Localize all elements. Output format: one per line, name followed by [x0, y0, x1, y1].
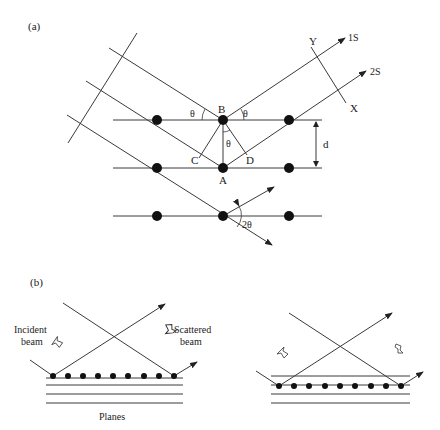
- scattered-ray-short-right: [401, 372, 423, 386]
- d-label: d: [323, 138, 329, 150]
- two-theta-label: 2θ: [242, 219, 252, 230]
- point-C-label: C: [191, 154, 198, 166]
- scattered-ray-out: [53, 304, 165, 376]
- line-BC: [199, 120, 223, 158]
- scattered-ray-short: [174, 362, 197, 376]
- panel-a: (a) d θ θ θ 2θ: [28, 20, 381, 245]
- scattered-label-2: beam: [180, 336, 202, 347]
- incident-beam-arrow-icon: [51, 336, 64, 349]
- incident-wavefront: [68, 33, 137, 143]
- incident-beam-arrow-icon-right: [277, 347, 288, 358]
- ray-1S-label: 1S: [348, 32, 359, 43]
- point-D-label: D: [246, 154, 254, 166]
- scattered-beam-arrow-icon-right: [395, 344, 403, 353]
- point-Y-label: Y: [309, 35, 317, 47]
- atoms-panel-b-right: [276, 383, 404, 389]
- bragg-diffraction-figure: (a) d θ θ θ 2θ: [0, 0, 440, 430]
- incident-ray-in-right: [256, 371, 279, 386]
- theta-left-label: θ: [190, 108, 195, 119]
- incident-ray-1: [109, 48, 223, 120]
- theta-right-label: θ: [243, 108, 248, 119]
- incident-label-2: beam: [21, 336, 43, 347]
- incident-ray-in: [30, 360, 53, 376]
- scattered-wavefront: [311, 47, 346, 103]
- panel-b-right: [256, 313, 423, 403]
- point-B-label: B: [218, 103, 225, 115]
- incident-ray-cross: [63, 303, 174, 376]
- panel-b-label: (b): [30, 276, 43, 289]
- planes-label: Planes: [99, 411, 125, 422]
- panel-a-label: (a): [28, 20, 41, 33]
- point-A-label: A: [219, 174, 227, 186]
- theta-center-label: θ: [226, 138, 231, 149]
- incident-label-1: Incident: [14, 324, 47, 335]
- atoms-panel-b-left: [50, 373, 177, 379]
- angle-arc-center: [223, 130, 230, 132]
- d-arrow-bottom-icon: [313, 161, 319, 167]
- scattered-ray-1S: [223, 38, 345, 120]
- panel-b-left: Incident beam Scattered beam Planes: [14, 303, 211, 422]
- incident-ray-2: [86, 81, 223, 168]
- point-X-label: X: [350, 102, 358, 114]
- panel-b: (b) Inc: [14, 276, 423, 422]
- scattered-ray-3: [223, 187, 274, 216]
- d-arrow-top-icon: [313, 121, 319, 127]
- incident-ray-cross-right: [289, 313, 401, 386]
- angle-arc-left: [202, 109, 205, 120]
- scattered-ray-out-right: [279, 313, 392, 386]
- ray-2S-label: 2S: [370, 66, 381, 77]
- scattered-label-1: Scattered: [174, 324, 211, 335]
